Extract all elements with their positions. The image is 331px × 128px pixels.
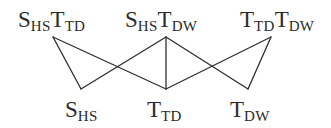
edge-shsttd-shs	[53, 37, 81, 89]
node-label-shs-tdw: SHSTDW	[125, 8, 197, 31]
node-label-ttd-tdw: TTDTDW	[240, 8, 314, 31]
node-label-shs-ttd: SHSTTD	[18, 8, 85, 31]
label-main: S	[125, 7, 138, 32]
node-label-shs: SHS	[65, 98, 98, 121]
label-sub: HS	[138, 18, 158, 34]
label-main: T	[230, 97, 244, 122]
node-label-ttd: TTD	[147, 98, 182, 121]
label-sub: TD	[65, 18, 86, 34]
edge-ttdtdw-tdw	[248, 37, 271, 89]
label-main: T	[51, 7, 65, 32]
edge-shstdw-tdw	[166, 37, 248, 89]
label-main: S	[65, 97, 78, 122]
label-sub: HS	[31, 18, 51, 34]
edge-shsttd-ttd	[53, 37, 166, 89]
label-sub: TD	[161, 108, 182, 124]
label-sub: DW	[172, 18, 198, 34]
label-sub: HS	[78, 108, 98, 124]
node-label-tdw: TDW	[230, 98, 270, 121]
label-main: T	[275, 7, 289, 32]
label-sub: DW	[244, 108, 270, 124]
label-main: S	[18, 7, 31, 32]
label-sub: TD	[254, 18, 275, 34]
edge-shstdw-shs	[81, 37, 166, 89]
edge-ttdtdw-ttd	[166, 37, 271, 89]
label-sub: DW	[289, 18, 315, 34]
label-main: T	[158, 7, 172, 32]
label-main: T	[240, 7, 254, 32]
label-main: T	[147, 97, 161, 122]
